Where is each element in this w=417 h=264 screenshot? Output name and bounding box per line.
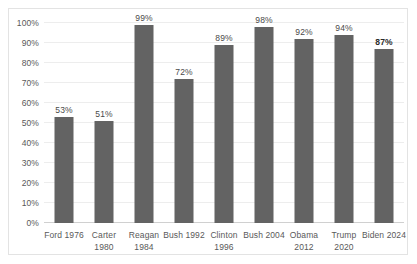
bar[interactable]	[94, 121, 113, 223]
bar[interactable]	[134, 25, 153, 223]
y-axis-tick-label: 10%	[22, 198, 39, 208]
y-axis-tick-label: 100%	[17, 18, 39, 28]
bar-value-label: 94%	[335, 23, 352, 33]
bar-group: 72%Bush 1992	[164, 23, 204, 223]
bar[interactable]	[374, 49, 393, 223]
y-axis-tick-label: 0%	[27, 218, 40, 228]
y-axis-tick-label: 20%	[22, 178, 39, 188]
bar-group: 94%Trump 2020	[324, 23, 364, 223]
y-axis-tick-label: 90%	[22, 38, 39, 48]
bar-value-label: 51%	[95, 109, 112, 119]
bar-group: 89%Clinton 1996	[204, 23, 244, 223]
bar[interactable]	[254, 27, 273, 223]
bar-group: 53%Ford 1976	[44, 23, 84, 223]
bar-group: 99%Reagan 1984	[124, 23, 164, 223]
bar-value-label: 92%	[295, 27, 312, 37]
y-axis-tick-label: 80%	[22, 58, 39, 68]
y-axis-tick-label: 50%	[22, 118, 39, 128]
bar[interactable]	[214, 45, 233, 223]
y-axis-tick-label: 70%	[22, 78, 39, 88]
bar-value-label: 72%	[175, 67, 192, 77]
x-axis-tick-label: Biden 2024	[357, 229, 408, 241]
bar[interactable]	[54, 117, 73, 223]
y-axis-tick-label: 60%	[22, 98, 39, 108]
bar-group: 51%Carter 1980	[84, 23, 124, 223]
bar-value-label: 99%	[135, 13, 152, 23]
y-axis-tick-label: 40%	[22, 138, 39, 148]
bar-group: 98%Bush 2004	[244, 23, 284, 223]
bar-value-label: 53%	[55, 105, 72, 115]
bar-value-label: 87%	[375, 37, 392, 47]
bar-group: 87%Biden 2024	[364, 23, 404, 223]
bar-value-label: 89%	[215, 33, 232, 43]
bar-group: 92%Obama 2012	[284, 23, 324, 223]
bar-value-label: 98%	[255, 15, 272, 25]
bar[interactable]	[334, 35, 353, 223]
plot-area: 0%10%20%30%40%50%60%70%80%90%100%53%Ford…	[44, 23, 404, 223]
bar-chart: 0%10%20%30%40%50%60%70%80%90%100%53%Ford…	[8, 8, 408, 255]
bar[interactable]	[294, 39, 313, 223]
bar[interactable]	[174, 79, 193, 223]
y-axis-tick-label: 30%	[22, 158, 39, 168]
